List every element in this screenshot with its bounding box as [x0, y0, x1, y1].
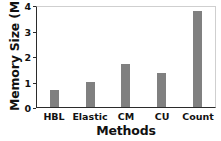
y-tick-label: 3	[20, 27, 31, 36]
x-tick-label: CM	[108, 110, 144, 123]
y-tick-mark	[33, 83, 36, 84]
y-tick-label: 4	[20, 2, 31, 11]
bar-slot	[144, 7, 180, 107]
bar-chart-figure: Memory Size (MB) 01234 HBLElasticCMCUCou…	[0, 0, 221, 141]
plot-area	[36, 6, 216, 108]
x-tick-label: HBL	[36, 110, 72, 123]
bar-group	[37, 7, 215, 107]
x-tick-label: Count	[180, 110, 216, 123]
y-tick-mark	[33, 6, 36, 7]
y-tick-label: 1	[20, 78, 31, 87]
y-tick-label: 2	[20, 53, 31, 62]
x-tick-label: Elastic	[72, 110, 108, 123]
x-axis-title: Methods	[36, 123, 216, 138]
bar[interactable]	[50, 90, 59, 107]
y-axis-tick-labels: 01234	[20, 0, 31, 141]
bar[interactable]	[193, 11, 202, 107]
bar[interactable]	[157, 73, 166, 107]
bar-slot	[108, 7, 144, 107]
y-tick-label: 0	[20, 104, 31, 113]
y-tick-mark	[33, 108, 36, 109]
bar-slot	[179, 7, 215, 107]
x-tick-label: CU	[144, 110, 180, 123]
bar-slot	[73, 7, 109, 107]
y-tick-mark	[33, 32, 36, 33]
y-tick-mark	[33, 57, 36, 58]
bar[interactable]	[121, 64, 130, 107]
bar[interactable]	[86, 82, 95, 107]
x-axis-tick-labels: HBLElasticCMCUCount	[36, 110, 216, 123]
bar-slot	[37, 7, 73, 107]
